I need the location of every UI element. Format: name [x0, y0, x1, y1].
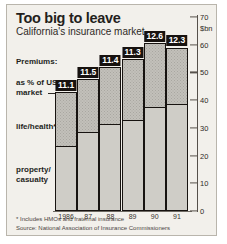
bar-90	[144, 43, 166, 211]
bar-91	[166, 48, 188, 212]
bar-segment-life-health-91	[167, 49, 187, 106]
bar-87	[77, 79, 99, 211]
y-axis-tick-40	[190, 100, 198, 101]
y-axis-tick-label-40: 40	[200, 96, 208, 105]
y-axis-tick-label-50: 50	[200, 68, 208, 77]
footnote-source: Source: National Association of Insuranc…	[16, 225, 170, 231]
x-axis-label-89: 89	[129, 213, 137, 220]
bar-value-label-1986: 11.1	[56, 80, 77, 91]
y-axis-tick-50	[190, 72, 198, 73]
bar-segment-life-health-88	[100, 68, 120, 125]
y-axis-tick-label-10: 10	[200, 179, 208, 188]
annotation-property-line2: casualty	[16, 175, 48, 184]
annotation-premiums: Premiums:	[16, 57, 57, 67]
annotation-percent-of-us-market: as % of US market	[16, 78, 57, 98]
baseline	[53, 211, 192, 212]
annotation-property-line1: property/	[16, 165, 51, 174]
bar-segment-life-health-87	[78, 80, 98, 133]
bar-value-label-91: 12.3	[166, 35, 188, 46]
bar-89	[122, 59, 144, 211]
y-axis-tick-30	[190, 127, 198, 128]
bar-value-label-87: 11.5	[78, 67, 99, 78]
footnote-note: * Includes HMOs and fraternal insurance	[16, 216, 124, 222]
y-axis-tick-label-0: 0	[200, 207, 204, 216]
annotation-property-casualty: property/ casualty	[16, 165, 51, 185]
y-axis-tick-label-30: 30	[200, 123, 208, 132]
y-axis-tick-0	[190, 210, 198, 211]
bar-88	[99, 67, 121, 211]
bar-1986	[55, 92, 77, 211]
bar-segment-life-health-1986	[56, 93, 76, 147]
annotation-life-health: life/health*	[16, 122, 56, 132]
bar-value-label-89: 11.3	[122, 47, 143, 58]
y-axis-tick-20	[190, 155, 198, 156]
annotation-percent-line2: market	[16, 88, 42, 97]
x-axis-label-90: 90	[151, 213, 159, 220]
y-axis-tick-70	[190, 16, 198, 17]
annotation-percent-line1: as % of US	[16, 78, 57, 87]
y-axis-tick-label-20: 20	[200, 151, 208, 160]
y-axis-tick-label-70: 70	[200, 13, 208, 22]
y-axis-unit-label: $bn	[200, 24, 213, 33]
bar-segment-life-health-90	[145, 44, 165, 108]
y-axis-tick-60	[190, 44, 198, 45]
chart-panel: Too big to leave California's insurance …	[6, 4, 217, 236]
y-axis-tick-10	[190, 183, 198, 184]
bar-segment-life-health-89	[123, 60, 143, 121]
y-axis-tick-label-60: 60	[200, 40, 208, 49]
y-axis: 010203040506070$bn	[188, 17, 214, 211]
x-axis-label-91: 91	[173, 213, 181, 220]
plot-area: 11.1198611.58711.48811.38912.69012.391	[55, 17, 188, 211]
bar-value-label-88: 11.4	[100, 55, 121, 66]
bar-value-label-90: 12.6	[144, 31, 166, 42]
